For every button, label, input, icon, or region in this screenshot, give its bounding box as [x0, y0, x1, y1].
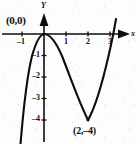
- y-tick-label--4: –4: [32, 115, 40, 123]
- parabola-curve: [21, 19, 117, 144]
- x-tick-label-1: 1: [64, 38, 68, 46]
- y-tick-label--3: –3: [32, 94, 40, 102]
- vertex-label: (2,–4): [73, 126, 96, 136]
- y-axis-label: Y: [41, 2, 46, 10]
- vertex-point: [87, 119, 90, 122]
- x-tick-label-3: 3: [108, 38, 112, 46]
- parabola-figure: (0,0) Y x –1 1 2 3 –1 –2 –3 –4 (2,–4): [0, 0, 140, 144]
- y-tick-label--1: –1: [32, 51, 40, 59]
- x-tick-label-2: 2: [86, 38, 90, 46]
- origin-label: (0,0): [6, 15, 26, 26]
- x-tick-label--1: –1: [17, 38, 25, 46]
- y-axis-arrowhead: [40, 13, 49, 26]
- x-axis-label: x: [131, 30, 135, 38]
- y-tick-label--2: –2: [32, 72, 40, 80]
- x-axis-arrowhead: [118, 30, 130, 39]
